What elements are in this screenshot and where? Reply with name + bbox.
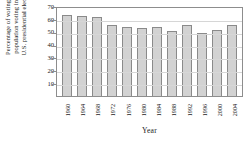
y-tick-mark-10 bbox=[52, 84, 56, 85]
x-axis-tick-labels: 1960196419681972197619801984198819921996… bbox=[56, 98, 243, 124]
x-tick-label-1984: 1984 bbox=[156, 99, 162, 121]
x-tick-label-1964: 1964 bbox=[80, 99, 86, 121]
y-tick-mark-60 bbox=[52, 20, 56, 21]
x-tick-1964: 1964 bbox=[76, 98, 86, 124]
x-axis-title: Year bbox=[56, 126, 243, 135]
y-axis-title-line-2: population voting in the bbox=[12, 0, 20, 56]
x-tick-label-2000: 2000 bbox=[217, 99, 223, 121]
x-tick-1972: 1972 bbox=[106, 98, 116, 124]
x-tick-label-1976: 1976 bbox=[126, 99, 132, 121]
x-tick-1960: 1960 bbox=[61, 98, 71, 124]
y-tick-mark-70 bbox=[52, 7, 56, 8]
x-tick-label-1996: 1996 bbox=[202, 99, 208, 121]
bar-1988 bbox=[167, 31, 177, 96]
x-tick-1968: 1968 bbox=[91, 98, 101, 124]
x-tick-label-1988: 1988 bbox=[171, 99, 177, 121]
bar-1960 bbox=[62, 15, 72, 96]
gridline-40 bbox=[57, 47, 242, 48]
bar-chart: Percentage of voting age population voti… bbox=[0, 0, 249, 141]
y-axis-title-line-3: U.S. presidential election bbox=[20, 0, 28, 56]
gridline-10 bbox=[57, 85, 242, 86]
x-tick-1996: 1996 bbox=[198, 98, 208, 124]
y-axis-title: Percentage of voting age population voti… bbox=[0, 0, 38, 74]
x-tick-2000: 2000 bbox=[213, 98, 223, 124]
x-tick-1976: 1976 bbox=[122, 98, 132, 124]
x-tick-1984: 1984 bbox=[152, 98, 162, 124]
x-tick-1988: 1988 bbox=[167, 98, 177, 124]
bar-1996 bbox=[197, 33, 207, 96]
y-tick-mark-50 bbox=[52, 33, 56, 34]
bar-1964 bbox=[77, 16, 87, 96]
y-tick-mark-30 bbox=[52, 58, 56, 59]
x-tick-label-2004: 2004 bbox=[232, 99, 238, 121]
gridline-20 bbox=[57, 72, 242, 73]
x-tick-2004: 2004 bbox=[228, 98, 238, 124]
y-tick-mark-20 bbox=[52, 71, 56, 72]
x-tick-label-1980: 1980 bbox=[141, 99, 147, 121]
x-tick-1992: 1992 bbox=[183, 98, 193, 124]
gridline-50 bbox=[57, 34, 242, 35]
gridline-30 bbox=[57, 59, 242, 60]
x-tick-label-1960: 1960 bbox=[65, 99, 71, 121]
x-tick-label-1968: 1968 bbox=[95, 99, 101, 121]
x-tick-label-1972: 1972 bbox=[110, 99, 116, 121]
y-tick-mark-40 bbox=[52, 46, 56, 47]
x-tick-1980: 1980 bbox=[137, 98, 147, 124]
y-axis-title-line-1: Percentage of voting age bbox=[4, 0, 12, 56]
plot-area bbox=[56, 7, 243, 97]
gridline-60 bbox=[57, 21, 242, 22]
x-tick-label-1992: 1992 bbox=[187, 99, 193, 121]
